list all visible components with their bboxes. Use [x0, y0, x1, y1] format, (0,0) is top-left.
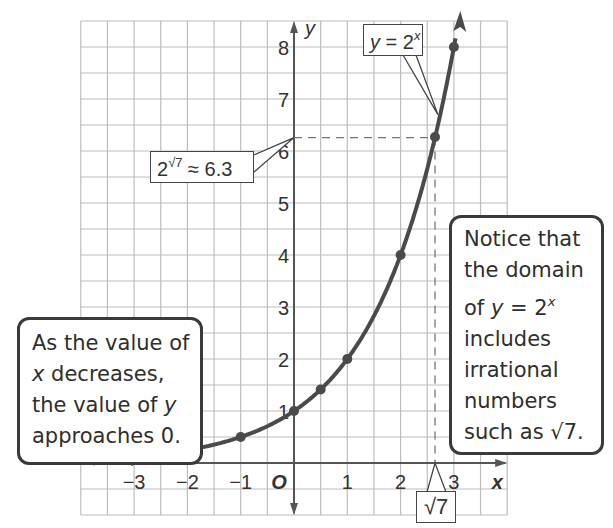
- func-exp: x: [414, 28, 421, 43]
- left-line-3: the value of y: [32, 390, 190, 421]
- right-line-3: of y = 2x: [464, 286, 593, 324]
- sqrt7-text: √7: [424, 494, 448, 519]
- base-2: 2: [157, 158, 168, 180]
- svg-text:3: 3: [448, 471, 459, 493]
- func-y: y: [370, 31, 380, 53]
- svg-text:5: 5: [278, 193, 289, 215]
- right-line-7: such as √7.: [464, 417, 593, 448]
- right-line-4: includes: [464, 324, 593, 355]
- svg-text:−2: −2: [176, 471, 199, 493]
- right-line-6: numbers: [464, 386, 593, 417]
- sqrt7-guide-lines: [294, 138, 435, 463]
- left-line-3-text: the value of: [32, 393, 164, 417]
- right-line-3-eq: = 2: [503, 296, 547, 320]
- sqrt7-x-label: √7: [416, 491, 456, 523]
- svg-text:x: x: [491, 471, 504, 493]
- sqrt7-value-label: 2√7 ≈ 6.3: [150, 151, 254, 183]
- var-y: y: [164, 393, 176, 417]
- svg-text:y: y: [303, 17, 316, 39]
- func-eq: = 2: [380, 31, 414, 53]
- exponent-sqrt7: √7: [168, 155, 182, 170]
- svg-text:1: 1: [342, 471, 353, 493]
- right-line-2: the domain: [464, 255, 593, 286]
- left-line-1: As the value of: [32, 328, 190, 359]
- right-line-5: irrational: [464, 355, 593, 386]
- callout-x-decreases: As the value of x decreases, the value o…: [17, 317, 203, 465]
- right-line-1: Notice that: [464, 224, 593, 255]
- var-x: x: [32, 362, 44, 386]
- svg-text:O: O: [271, 471, 287, 493]
- left-line-2-text: decreases,: [44, 362, 164, 386]
- svg-text:2: 2: [278, 349, 289, 371]
- var-y: y: [491, 296, 503, 320]
- approx-value: ≈ 6.3: [183, 158, 233, 180]
- svg-text:4: 4: [278, 245, 289, 267]
- callout-domain-irrational: Notice that the domain of y = 2x include…: [449, 215, 604, 455]
- svg-text:7: 7: [278, 89, 289, 111]
- left-line-4: approaches 0.: [32, 421, 190, 452]
- svg-text:3: 3: [278, 297, 289, 319]
- svg-text:2: 2: [395, 471, 406, 493]
- left-line-2: x decreases,: [32, 359, 190, 390]
- right-line-3-of: of: [464, 296, 491, 320]
- svg-text:−1: −1: [229, 471, 252, 493]
- exp-x: x: [548, 294, 556, 309]
- svg-text:8: 8: [278, 37, 289, 59]
- svg-text:−3: −3: [123, 471, 146, 493]
- function-label: y = 2x: [363, 24, 423, 56]
